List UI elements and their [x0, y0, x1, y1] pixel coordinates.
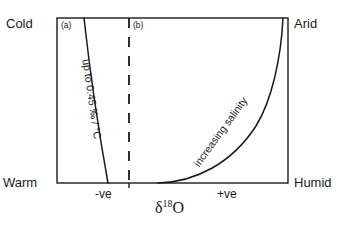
delta-18o-climate-diagram: Cold Warm Arid Humid (a) (b) -ve +ve δ18… [0, 0, 339, 231]
panel-tag-a: (a) [61, 21, 71, 30]
x-axis-title: δ18O [0, 200, 339, 216]
axis-label-warm: Warm [3, 176, 37, 189]
axis-tick-label-positive: +ve [217, 188, 237, 200]
axis-label-arid: Arid [294, 17, 317, 30]
x-axis-title-suffix: O [172, 199, 184, 216]
x-axis-title-symbol: δ [155, 199, 163, 216]
axis-tick-label-negative: -ve [95, 188, 112, 200]
plot-area [0, 0, 339, 231]
panel-tag-b: (b) [133, 21, 143, 30]
x-axis-title-superscript: 18 [163, 198, 173, 209]
axis-label-cold: Cold [6, 17, 33, 30]
increasing-salinity-curve [158, 18, 283, 183]
axis-label-humid: Humid [294, 176, 332, 189]
